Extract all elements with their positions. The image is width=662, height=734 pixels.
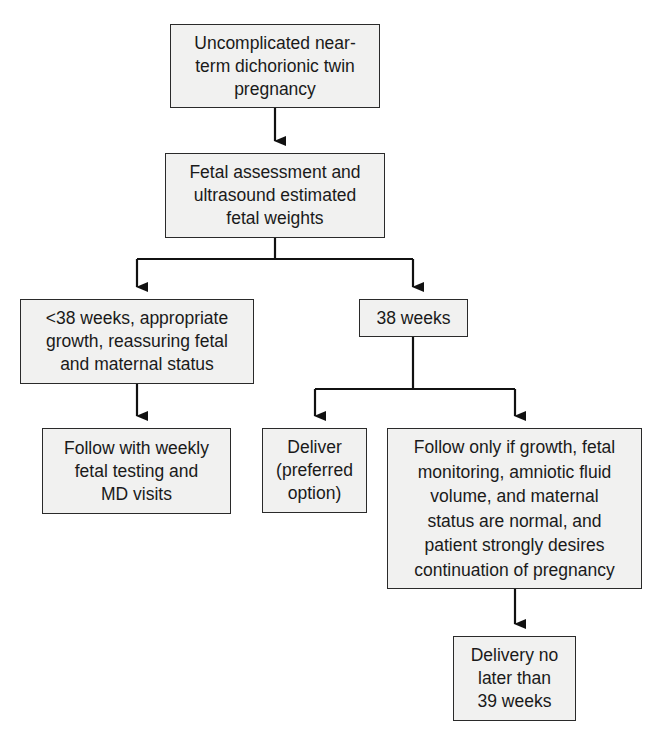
node-follow-only-if-normal: Follow only if growth, fetal monitoring,…: [387, 428, 642, 589]
node-label: Uncomplicated near- term dichorionic twi…: [194, 32, 355, 101]
node-label: 38 weeks: [377, 307, 451, 330]
node-label: Follow only if growth, fetal monitoring,…: [414, 435, 615, 582]
node-38-weeks: 38 weeks: [359, 299, 468, 337]
node-follow-weekly-testing: Follow with weekly fetal testing and MD …: [42, 428, 231, 514]
node-label: Deliver (preferred option): [276, 436, 353, 505]
node-label: <38 weeks, appropriate growth, reassurin…: [46, 307, 228, 376]
node-label: Follow with weekly fetal testing and MD …: [64, 437, 209, 506]
node-label: Delivery no later than 39 weeks: [471, 644, 559, 713]
node-deliver-preferred: Deliver (preferred option): [262, 428, 367, 513]
node-less-than-38-weeks: <38 weeks, appropriate growth, reassurin…: [20, 299, 254, 384]
node-label: Fetal assessment and ultrasound estimate…: [189, 161, 360, 230]
node-uncomplicated-twin-pregnancy: Uncomplicated near- term dichorionic twi…: [170, 24, 380, 108]
node-delivery-by-39-weeks: Delivery no later than 39 weeks: [453, 636, 576, 721]
node-fetal-assessment: Fetal assessment and ultrasound estimate…: [165, 153, 385, 238]
